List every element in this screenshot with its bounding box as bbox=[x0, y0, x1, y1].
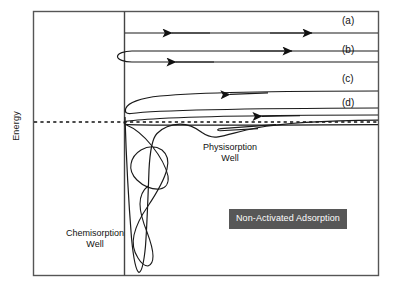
trajectory-label-a: (a) bbox=[342, 15, 354, 26]
trajectory-label-d: (d) bbox=[342, 97, 354, 108]
chemisorption-well-label: Chemisorption Well bbox=[50, 228, 140, 250]
physisorption-well-label-line1: Physisorption bbox=[203, 142, 257, 152]
physisorption-well-label: Physisorption Well bbox=[185, 142, 275, 164]
chemisorption-well-label-line1: Chemisorption bbox=[66, 228, 124, 238]
non-activated-adsorption-callout: Non-Activated Adsorption bbox=[229, 209, 347, 229]
potential-energy-diagram: Energy bbox=[0, 0, 396, 291]
trajectory-label-b: (b) bbox=[342, 44, 354, 55]
trajectory-label-c: (c) bbox=[342, 73, 354, 84]
physisorption-well-label-line2: Well bbox=[221, 153, 238, 163]
chemisorption-well-label-line2: Well bbox=[86, 239, 103, 249]
